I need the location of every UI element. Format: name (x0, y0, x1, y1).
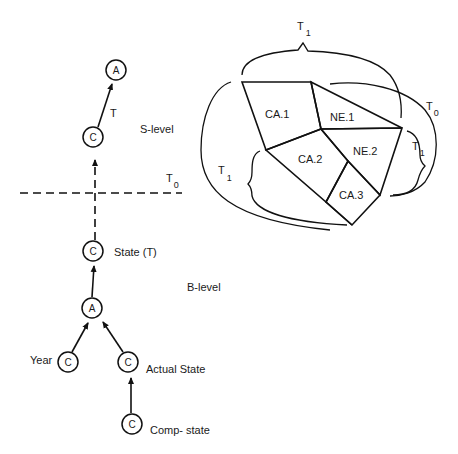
node-state-t[interactable]: C (83, 241, 103, 261)
node-actual-state[interactable]: C (118, 352, 138, 372)
edge-actual-to-b-a (103, 322, 123, 352)
caption-actual-state: Actual State (146, 363, 205, 375)
label-ca2: CA.2 (298, 153, 322, 165)
node-comp-state[interactable]: C (122, 414, 142, 434)
map-edge (326, 202, 352, 225)
label-ca3: CA.3 (339, 189, 363, 201)
svg-text:A: A (113, 65, 120, 76)
node-s-top-a[interactable]: A (106, 60, 126, 80)
node-b-a[interactable]: A (82, 298, 102, 318)
svg-text:C: C (128, 419, 135, 430)
caption-year: Year (30, 354, 53, 366)
edge-b-a-to-state (92, 266, 94, 297)
node-s-c[interactable]: C (83, 127, 103, 147)
b-level-label: B-level (187, 281, 221, 293)
bracket-label-right-outer: T0 (426, 100, 439, 118)
label-ne1: NE.1 (330, 111, 354, 123)
svg-text:C: C (89, 246, 96, 257)
diagram-canvas: T0 T A C C A (0, 0, 458, 454)
caption-comp-state: Comp- state (150, 424, 210, 436)
label-ca1: CA.1 (265, 108, 289, 120)
svg-text:C: C (124, 357, 131, 368)
bracket-label-left: T1 (218, 164, 232, 183)
threshold-divider: T0 (20, 172, 182, 193)
bracket-top (242, 43, 401, 118)
threshold-label: T0 (166, 172, 179, 190)
bracket-label-right-inner: T1 (412, 140, 425, 158)
svg-text:A: A (89, 303, 96, 314)
bracket-label-top: T1 (297, 20, 311, 38)
svg-text:C: C (64, 357, 71, 368)
region-ne2[interactable] (321, 128, 402, 195)
caption-state-t: State (T) (114, 246, 157, 258)
edge-year-to-b-a (72, 323, 88, 352)
region-ca2[interactable] (266, 129, 348, 202)
node-year[interactable]: C (58, 352, 78, 372)
svg-text:C: C (89, 132, 96, 143)
label-ne2: NE.2 (353, 145, 377, 157)
s-level-label: S-level (140, 123, 174, 135)
edge-s-c-to-s-a (98, 84, 112, 127)
edge-label-t: T (110, 107, 117, 119)
map-brackets (201, 43, 436, 230)
